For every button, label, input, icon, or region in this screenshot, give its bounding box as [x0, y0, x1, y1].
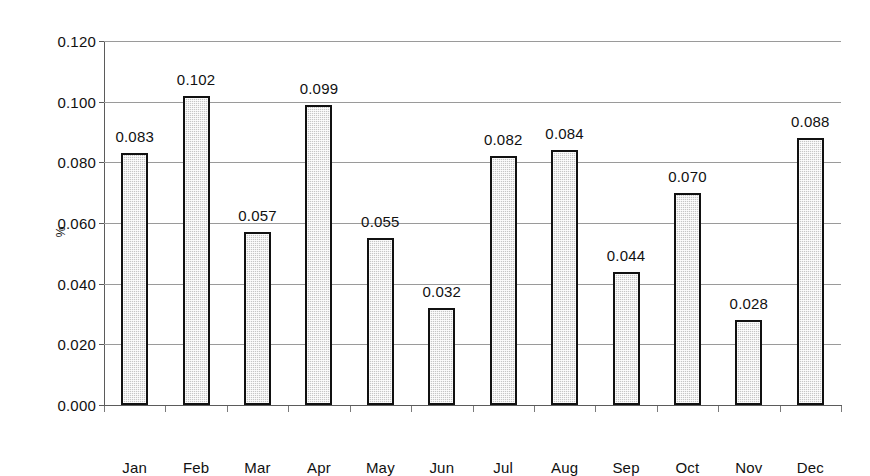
x-axis-category-label: May	[366, 459, 395, 476]
bar-value-label: 0.084	[545, 125, 584, 142]
bar[interactable]	[613, 272, 640, 405]
bar[interactable]	[797, 138, 824, 405]
x-axis-tick-mark	[227, 406, 228, 412]
y-axis-tick-label: 0.060	[57, 215, 96, 232]
x-axis-category-label: Apr	[307, 459, 331, 476]
x-axis-category-label: Oct	[675, 459, 699, 476]
gridline	[104, 284, 841, 285]
bar[interactable]	[490, 156, 517, 405]
bar-value-label: 0.099	[300, 80, 339, 97]
bar-value-label: 0.028	[730, 295, 769, 312]
bar[interactable]	[551, 150, 578, 405]
x-axis-tick-mark	[288, 406, 289, 412]
bar[interactable]	[305, 105, 332, 405]
gridline	[104, 162, 841, 163]
bar[interactable]	[674, 193, 701, 405]
x-axis-tick-mark	[780, 406, 781, 412]
x-axis-category-label: Sep	[612, 459, 639, 476]
x-axis-tick-mark	[657, 406, 658, 412]
x-axis-tick-mark	[411, 406, 412, 412]
y-axis-tick-labels: 0.0000.0200.0400.0600.0800.1000.120	[0, 0, 96, 464]
x-axis-category-label: Mar	[244, 459, 270, 476]
bar-value-label: 0.057	[238, 207, 277, 224]
bar-value-label: 0.088	[791, 113, 830, 130]
x-axis-tick-mark	[534, 406, 535, 412]
y-axis-tick-label: 0.040	[57, 275, 96, 292]
gridline	[104, 102, 841, 103]
bar-value-label: 0.032	[423, 283, 462, 300]
bar[interactable]	[183, 96, 210, 405]
x-axis-tick-mark	[473, 406, 474, 412]
y-axis-tick-label: 0.000	[57, 397, 96, 414]
bar[interactable]	[121, 153, 148, 405]
bar-value-label: 0.070	[668, 168, 707, 185]
x-axis-category-label: Jul	[493, 459, 513, 476]
x-axis-tick-mark	[165, 406, 166, 412]
x-axis-tick-mark	[718, 406, 719, 412]
y-axis-tick-label: 0.120	[57, 33, 96, 50]
x-axis-category-label: Nov	[735, 459, 762, 476]
bar[interactable]	[428, 308, 455, 405]
x-axis-category-label: Feb	[183, 459, 209, 476]
y-axis-tick-label: 0.080	[57, 154, 96, 171]
x-axis-tick-mark	[104, 406, 105, 412]
x-axis-category-label: Jan	[122, 459, 147, 476]
x-axis-tick-mark	[841, 406, 842, 412]
bar[interactable]	[244, 232, 271, 405]
gridline	[104, 41, 841, 42]
y-axis-tick-label: 0.020	[57, 336, 96, 353]
gridline	[104, 223, 841, 224]
plot-area: 0.083Jan0.102Feb0.057Mar0.099Apr0.055May…	[104, 41, 841, 405]
bar-value-label: 0.102	[177, 71, 216, 88]
bar-value-label: 0.083	[115, 128, 154, 145]
x-axis-category-label: Aug	[551, 459, 578, 476]
bar-value-label: 0.055	[361, 213, 400, 230]
gridline	[104, 344, 841, 345]
y-axis-tick-label: 0.100	[57, 93, 96, 110]
bar[interactable]	[367, 238, 394, 405]
x-axis-category-label: Dec	[797, 459, 824, 476]
bar-value-label: 0.044	[607, 247, 646, 264]
x-axis-tick-mark	[350, 406, 351, 412]
x-axis-tick-mark	[595, 406, 596, 412]
x-axis-category-label: Jun	[429, 459, 454, 476]
bar[interactable]	[735, 320, 762, 405]
bar-value-label: 0.082	[484, 131, 523, 148]
